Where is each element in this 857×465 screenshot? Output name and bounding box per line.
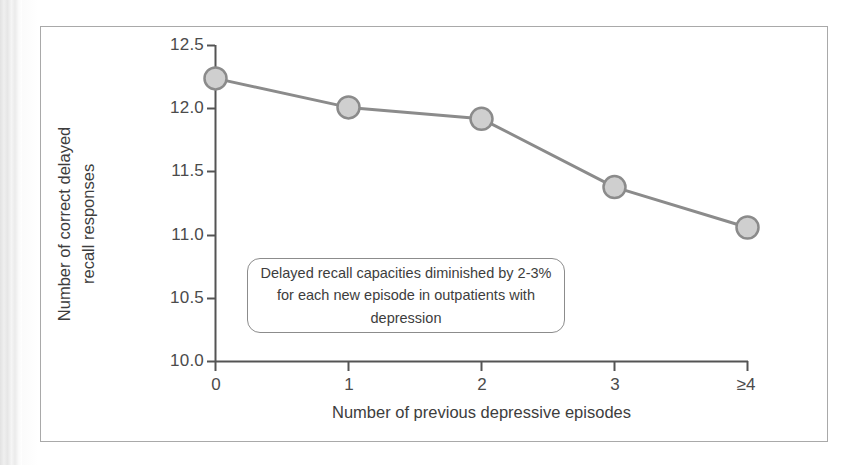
- x-axis-tick-labels: 0 1 2 3 ≥4: [0, 0, 857, 465]
- x-axis-title: Number of previous depressive episodes: [215, 403, 748, 422]
- y-axis-title-line-1: Number of correct delayed: [53, 99, 77, 349]
- y-axis-title: Number of correct delayed recall respons…: [53, 99, 101, 349]
- annotation-callout-text: Delayed recall capacities diminished by …: [251, 262, 562, 328]
- x-tick-label: 1: [319, 375, 379, 395]
- annotation-callout-box: Delayed recall capacities diminished by …: [247, 258, 565, 333]
- annotation-line-2: for each new episode in outpatients with: [261, 284, 552, 306]
- x-tick-label: 2: [452, 375, 512, 395]
- x-tick-label: ≥4: [716, 375, 776, 395]
- x-tick-label: 3: [585, 375, 645, 395]
- x-tick-label: 0: [186, 375, 246, 395]
- annotation-line-1: Delayed recall capacities diminished by …: [261, 262, 552, 284]
- y-axis-title-line-2: recall responses: [77, 99, 101, 349]
- annotation-line-3: depression: [261, 307, 552, 329]
